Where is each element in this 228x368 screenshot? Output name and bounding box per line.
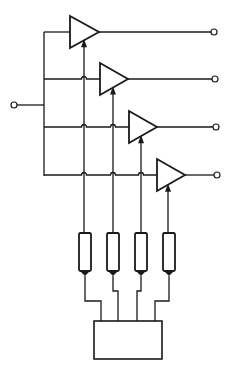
potentiometer-4-icon	[163, 233, 175, 271]
pot-wiper-3-icon	[136, 271, 146, 276]
output-terminal-3-icon	[213, 124, 219, 130]
row-wire-3	[44, 125, 129, 128]
amplifier-group	[70, 16, 185, 192]
output-terminal-4-icon	[214, 172, 220, 178]
potentiometer-1-icon	[79, 233, 91, 271]
pot-lead-4	[155, 276, 169, 321]
pot-lead-1	[85, 276, 101, 321]
output-terminal-1-icon	[211, 29, 217, 35]
pot-wiper-2-icon	[108, 271, 118, 276]
schematic-svg	[0, 0, 228, 368]
potentiometer-2-icon	[107, 233, 119, 271]
output-terminal-2-icon	[212, 76, 218, 82]
potentiometer-group	[79, 233, 175, 276]
row-wire-2	[44, 77, 100, 80]
input-terminal-icon	[11, 102, 17, 108]
pot-wiper-4-icon	[164, 271, 174, 276]
circuit-diagram	[0, 0, 228, 368]
amplifier-3-icon	[129, 111, 157, 143]
terminals	[11, 29, 220, 178]
control-unit	[94, 321, 162, 359]
amplifier-4-icon	[157, 159, 185, 191]
row-wire-4	[44, 173, 157, 176]
potentiometer-3-icon	[135, 233, 147, 271]
pot-lead-3	[137, 276, 141, 321]
control-box	[94, 321, 162, 359]
pot-lead-2	[113, 276, 118, 321]
pot-wiper-1-icon	[80, 271, 90, 276]
